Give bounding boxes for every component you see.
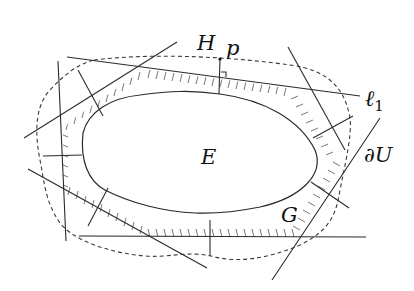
label-l1: ℓ1 (365, 86, 384, 115)
right-angle-marker (221, 72, 226, 77)
normal-segment (88, 188, 108, 226)
support-line-upper-left (24, 42, 177, 138)
label-H: H (196, 31, 216, 55)
normal-segment (313, 116, 353, 138)
normal-segment (43, 155, 82, 156)
label-G: G (281, 203, 298, 227)
normal-segment-p (219, 58, 220, 94)
convex-set-E (82, 91, 317, 213)
support-line-l1 (67, 57, 360, 96)
label-dU: ∂U (364, 143, 394, 167)
normal-segment (311, 182, 349, 208)
support-line-upper-right (288, 47, 345, 150)
label-l1-sub: 1 (374, 97, 384, 115)
support-line-bottom (79, 236, 366, 237)
label-p: p (226, 36, 239, 60)
normal-segment (78, 70, 103, 116)
support-line-left (58, 61, 66, 241)
support-line-lower-left (28, 169, 207, 268)
point-p (218, 57, 221, 60)
convex-set-diagram: H p ℓ1 E ∂U G (0, 0, 414, 291)
label-E: E (200, 145, 216, 169)
